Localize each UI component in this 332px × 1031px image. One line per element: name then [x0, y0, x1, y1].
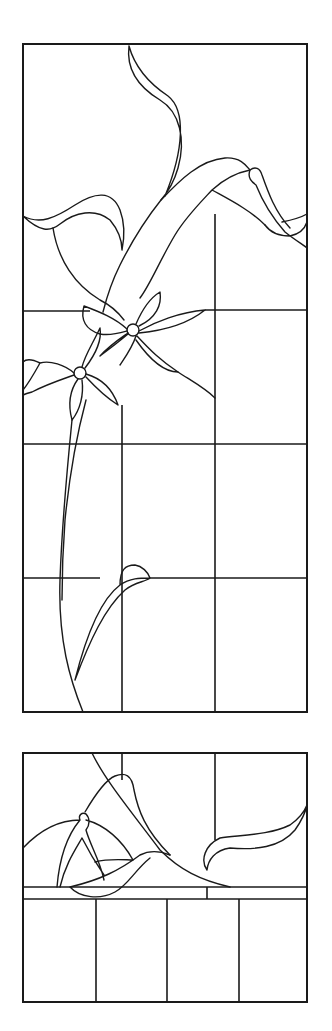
- right-curl-leaf: [204, 805, 307, 870]
- curling-leaf: [129, 46, 182, 200]
- lower-lily-trumpet: [85, 774, 170, 855]
- left-wavy-leaf: [23, 195, 124, 250]
- left-petal-curve: [53, 228, 124, 320]
- lily-trumpet: [103, 158, 265, 312]
- upper-grid: [23, 214, 307, 712]
- lower-wave-leaf: [70, 852, 170, 897]
- stem: [60, 400, 86, 712]
- lower-grid: [23, 753, 307, 1002]
- bud: [249, 168, 307, 248]
- flower-1-center: [127, 324, 139, 336]
- stained-glass-pattern: [0, 0, 332, 1031]
- lower-panel: [23, 753, 307, 1002]
- lower-leaf: [75, 565, 150, 680]
- lower-stem-diagonal: [92, 753, 230, 887]
- lower-bud: [23, 813, 133, 887]
- lower-panel-frame: [23, 753, 307, 1002]
- flower-2-center: [74, 367, 86, 379]
- upper-panel: [23, 44, 307, 712]
- open-flower-2: [23, 328, 118, 420]
